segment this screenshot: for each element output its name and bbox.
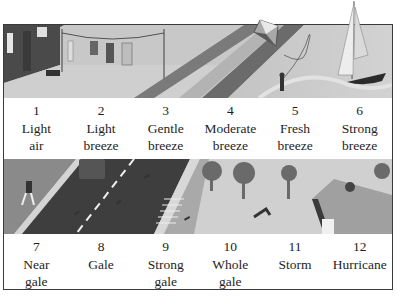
scale-label-line2: gale bbox=[198, 273, 263, 289]
bottom-labels-row: 7 Near gale 8 Gale 9 Strong gale 10 Whol… bbox=[4, 234, 392, 289]
scale-item-7: 7 Near gale bbox=[4, 234, 69, 289]
scale-label-line2: breeze bbox=[327, 137, 392, 155]
scale-number: 3 bbox=[133, 102, 198, 120]
scale-item-2: 2 Light breeze bbox=[69, 98, 134, 159]
scale-item-6: 6 Strong breeze bbox=[327, 98, 392, 159]
scale-label-line1: Light bbox=[69, 120, 134, 138]
scale-label-line2: air bbox=[4, 137, 69, 155]
beaufort-scale-figure: 1 Light air 2 Light breeze 3 Gentle bree… bbox=[3, 24, 393, 290]
scale-label-line2: breeze bbox=[69, 137, 134, 155]
scale-label-line1: Whole bbox=[198, 256, 263, 274]
scene-near-gale-to-hurricane-illustration bbox=[4, 159, 392, 234]
scale-number: 1 bbox=[4, 102, 69, 120]
scale-label-line1: Hurricane bbox=[327, 256, 392, 274]
kite-icon bbox=[252, 18, 282, 52]
scale-item-11: 11 Storm bbox=[263, 234, 328, 289]
scale-label-line1: Near bbox=[4, 256, 69, 274]
scale-item-3: 3 Gentle breeze bbox=[133, 98, 198, 159]
scale-number: 6 bbox=[327, 102, 392, 120]
scale-label-line1: Storm bbox=[263, 256, 328, 274]
scale-number: 7 bbox=[4, 238, 69, 256]
scale-label-line2: breeze bbox=[263, 137, 328, 155]
scale-item-8: 8 Gale bbox=[69, 234, 134, 289]
scale-label-line2: gale bbox=[4, 273, 69, 289]
scale-label-line1: Moderate bbox=[198, 120, 263, 138]
scale-label-line2: breeze bbox=[198, 137, 263, 155]
scale-item-1: 1 Light air bbox=[4, 98, 69, 159]
scale-number: 12 bbox=[327, 238, 392, 256]
scale-label-line1: Gale bbox=[69, 256, 134, 274]
scale-label-line2: breeze bbox=[133, 137, 198, 155]
scale-number: 9 bbox=[133, 238, 198, 256]
bottom-illustration bbox=[4, 159, 392, 234]
scale-item-12: 12 Hurricane bbox=[327, 234, 392, 289]
scale-number: 4 bbox=[198, 102, 263, 120]
scale-number: 10 bbox=[198, 238, 263, 256]
scale-label-line1: Strong bbox=[327, 120, 392, 138]
scale-label-line1: Fresh bbox=[263, 120, 328, 138]
scale-label-line1: Strong bbox=[133, 256, 198, 274]
scale-number: 8 bbox=[69, 238, 134, 256]
scale-item-4: 4 Moderate breeze bbox=[198, 98, 263, 159]
top-labels-row: 1 Light air 2 Light breeze 3 Gentle bree… bbox=[4, 98, 392, 159]
sailboat-icon bbox=[334, 1, 370, 85]
scale-number: 11 bbox=[263, 238, 328, 256]
scale-item-5: 5 Fresh breeze bbox=[263, 98, 328, 159]
scale-item-9: 9 Strong gale bbox=[133, 234, 198, 289]
scale-label-line1: Light bbox=[4, 120, 69, 138]
scale-number: 2 bbox=[69, 102, 134, 120]
scale-item-10: 10 Whole gale bbox=[198, 234, 263, 289]
scale-label-line2: gale bbox=[133, 273, 198, 289]
scale-number: 5 bbox=[263, 102, 328, 120]
scale-label-line1: Gentle bbox=[133, 120, 198, 138]
